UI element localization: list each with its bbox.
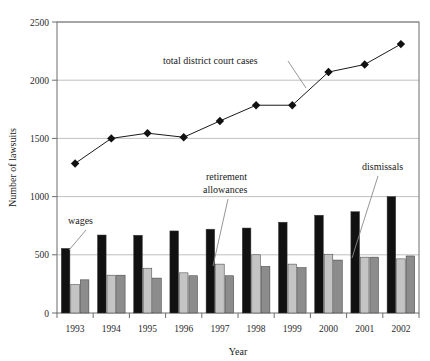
bar-wages-1999 [279,222,288,313]
y-tick-label-0: 0 [44,309,49,319]
bar-dismissals-2001 [370,257,379,313]
bar-retirement-allowances-1998 [252,255,261,313]
annotation-retirement-allowances-line1: retirement [206,171,247,182]
x-tick-label-1998: 1998 [247,324,266,334]
bar-dismissals-2002 [406,256,415,313]
bar-dismissals-1995 [153,278,162,313]
leader-retirement-allowances [213,199,228,266]
annotation-retirement-allowances-line2: allowances [203,184,248,195]
bar-retirement-allowances-1993 [71,284,80,313]
bar-dismissals-1997 [225,276,234,313]
bar-wages-1995 [134,235,143,313]
bar-retirement-allowances-2002 [397,259,406,313]
datapoint-1994 [107,134,115,142]
bar-wages-1994 [98,235,107,313]
annotation-total-district-court-cases: total district court cases [163,55,258,66]
leader-total-district-court-cases [288,61,306,88]
y-tick-label-1500: 1500 [30,134,49,144]
bar-wages-1998 [242,228,251,313]
bar-retirement-allowances-1999 [288,264,297,313]
x-tick-label-1994: 1994 [102,324,121,334]
y-tick-label-2000: 2000 [30,76,49,86]
bar-wages-2000 [315,215,324,313]
bar-retirement-allowances-1997 [216,264,225,313]
bar-wages-1997 [206,229,215,313]
bar-dismissals-1996 [189,276,198,313]
bar-retirement-allowances-1995 [143,268,152,313]
datapoint-1997 [216,117,224,125]
bar-dismissals-1994 [117,275,126,313]
bar-retirement-allowances-1994 [107,275,116,313]
x-tick-label-1997: 1997 [210,324,229,334]
x-tick-label-1999: 1999 [283,324,302,334]
datapoint-1995 [143,129,151,137]
datapoint-1998 [252,101,260,109]
bar-wages-2002 [387,197,396,313]
bar-wages-2001 [351,212,360,313]
x-tick-label-1995: 1995 [138,324,157,334]
bar-retirement-allowances-2000 [324,254,333,313]
y-tick-label-500: 500 [35,250,50,260]
chart-container: 0500100015002000250019931994199519961997… [0,0,430,361]
x-tick-label-1993: 1993 [66,324,85,334]
lawsuits-chart: 0500100015002000250019931994199519961997… [0,0,430,361]
x-tick-label-2001: 2001 [355,324,374,334]
x-axis-title: Year [229,346,248,357]
bar-dismissals-1999 [298,268,307,313]
datapoint-2002 [397,40,405,48]
annotation-dismissals: dismissals [362,161,403,172]
x-tick-label-2000: 2000 [319,324,338,334]
datapoint-1993 [71,159,79,167]
datapoint-1996 [180,133,188,141]
x-tick-label-1996: 1996 [174,324,193,334]
y-tick-label-1000: 1000 [30,192,49,202]
bar-retirement-allowances-2001 [360,257,369,313]
annotation-wages: wages [68,215,93,226]
y-axis-title: Number of lawsuits [7,128,18,207]
bar-dismissals-1993 [80,280,89,313]
bar-dismissals-2000 [334,260,343,313]
x-tick-label-2002: 2002 [391,324,410,334]
leader-wages [69,230,86,250]
bar-dismissals-1998 [261,266,270,313]
bar-retirement-allowances-1996 [179,273,188,313]
datapoint-2001 [361,60,369,68]
y-tick-label-2500: 2500 [30,18,49,28]
bar-wages-1996 [170,231,179,313]
bar-wages-1993 [61,248,70,313]
